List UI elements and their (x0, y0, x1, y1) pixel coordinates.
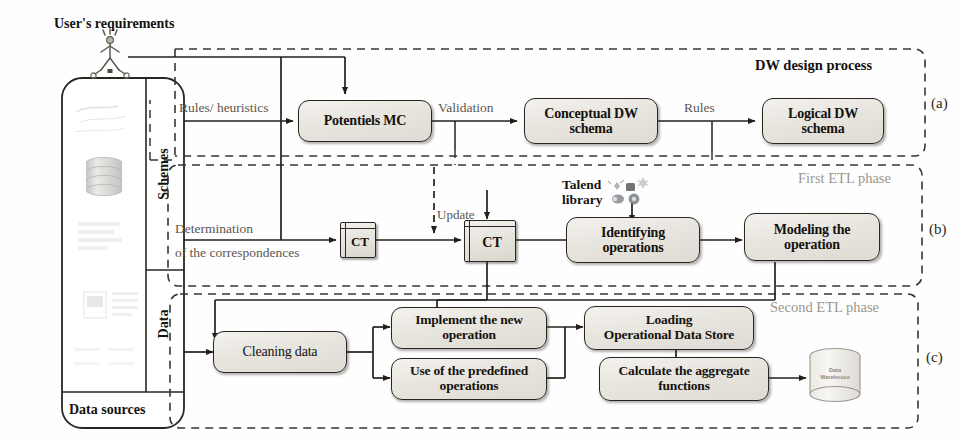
node-identifying-operations-label: Identifying operations (601, 225, 665, 255)
node-implement-new-operation-label: Implement the new operation (415, 313, 523, 342)
edge-label-validation: Validation (438, 100, 494, 115)
node-calculate-aggregate-functions[interactable]: Calculate the aggregate functions (599, 357, 769, 401)
node-potentiels-mc-label: Potentiels MC (324, 113, 407, 128)
node-loading-operational-data-store-label: Loading Operational Data Store (604, 313, 734, 342)
schemes-label: Schemes (156, 139, 172, 209)
edge-label-rules-heuristics: Rules/ heuristics (179, 100, 269, 115)
region-c-title: Second ETL phase (770, 299, 879, 315)
node-logical-dw-schema-label: Logical DW schema (788, 106, 858, 136)
figure-canvas: User's requirements Schemes Data Data so… (0, 0, 961, 443)
node-calculate-aggregate-functions-label: Calculate the aggregate functions (619, 364, 750, 393)
node-data-warehouse-label: Data Warehouse (810, 367, 860, 381)
node-modeling-the-operation[interactable]: Modeling the operation (744, 213, 880, 261)
region-c-tag: (c) (926, 349, 943, 366)
node-conceptual-dw-schema[interactable]: Conceptual DW schema (524, 98, 658, 144)
data-label: Data (156, 300, 172, 348)
node-conceptual-dw-schema-label: Conceptual DW schema (544, 106, 637, 136)
node-identifying-operations[interactable]: Identifying operations (566, 217, 700, 263)
node-potentiels-mc[interactable]: Potentiels MC (298, 100, 432, 142)
node-cleaning-data[interactable]: Cleaning data (213, 331, 347, 373)
node-ct-1[interactable]: CT (340, 222, 376, 258)
node-cleaning-data-label: Cleaning data (243, 344, 318, 359)
node-ct-1-label: CT (347, 230, 369, 250)
edge-label-determination-line1: Determination (175, 221, 253, 236)
users-requirements-label: User's requirements (54, 16, 174, 32)
talend-library-line1: Talend (562, 177, 601, 192)
node-loading-operational-data-store[interactable]: Loading Operational Data Store (584, 306, 754, 350)
node-ct-2-label: CT (478, 231, 501, 251)
region-a-title: DW design process (755, 57, 872, 73)
region-b-title: First ETL phase (798, 170, 891, 186)
data-sources-label: Data sources (69, 402, 145, 418)
node-use-predefined-operations[interactable]: Use of the predefined operations (391, 358, 547, 400)
node-modeling-the-operation-label: Modeling the operation (774, 222, 851, 252)
region-a-tag: (a) (931, 95, 948, 112)
region-b-tag: (b) (929, 221, 947, 238)
edge-label-rules: Rules (684, 100, 715, 115)
node-ct-2[interactable]: CT (464, 220, 516, 262)
node-logical-dw-schema[interactable]: Logical DW schema (762, 98, 884, 144)
node-use-predefined-operations-label: Use of the predefined operations (410, 364, 528, 393)
node-implement-new-operation[interactable]: Implement the new operation (391, 307, 547, 349)
talend-library-icon (608, 177, 649, 204)
talend-library-line2: library (562, 192, 603, 207)
edge-label-determination-line2: of the correspondences (175, 245, 299, 260)
database-stack-icon (86, 157, 122, 195)
user-stick-figure-icon (91, 29, 129, 78)
